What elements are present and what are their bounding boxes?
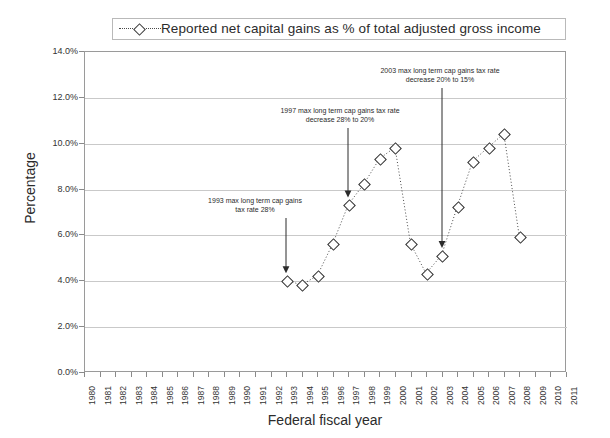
gridline bbox=[85, 190, 567, 191]
y-tick-mark bbox=[79, 143, 84, 144]
chart-annotation: 1993 max long term cap gainstax rate 28% bbox=[165, 196, 345, 214]
x-tick-mark bbox=[535, 372, 536, 377]
y-tick-label: 12.0% bbox=[28, 92, 78, 102]
x-tick-label: 1981 bbox=[104, 386, 113, 405]
x-tick-mark bbox=[224, 372, 225, 377]
x-tick-mark bbox=[131, 372, 132, 377]
x-tick-label: 1998 bbox=[368, 386, 377, 405]
chart-annotation: 2003 max long term cap gains tax ratedec… bbox=[350, 66, 530, 84]
chart-container: Reported net capital gains as % of total… bbox=[0, 0, 610, 438]
x-tick-mark bbox=[271, 372, 272, 377]
x-tick-label: 2008 bbox=[523, 386, 532, 405]
y-tick-mark bbox=[79, 280, 84, 281]
annotation-arrow-icon bbox=[279, 218, 293, 273]
x-tick-mark bbox=[488, 372, 489, 377]
legend-series-label: Reported net capital gains as % of total… bbox=[161, 21, 541, 37]
y-tick-label: 4.0% bbox=[28, 275, 78, 285]
annotation-line-2: tax rate 28% bbox=[165, 205, 345, 214]
x-tick-label: 2006 bbox=[492, 386, 501, 405]
y-tick-label: 10.0% bbox=[28, 138, 78, 148]
x-tick-mark bbox=[348, 372, 349, 377]
x-tick-mark bbox=[100, 372, 101, 377]
x-tick-mark bbox=[411, 372, 412, 377]
x-tick-mark bbox=[566, 372, 567, 377]
x-tick-mark bbox=[84, 372, 85, 377]
x-tick-label: 2003 bbox=[446, 386, 455, 405]
x-tick-mark bbox=[208, 372, 209, 377]
x-tick-mark bbox=[426, 372, 427, 377]
x-tick-label: 1985 bbox=[166, 386, 175, 405]
x-tick-mark bbox=[473, 372, 474, 377]
x-tick-mark bbox=[442, 372, 443, 377]
x-tick-mark bbox=[286, 372, 287, 377]
y-tick-label: 0.0% bbox=[28, 367, 78, 377]
x-tick-label: 2007 bbox=[508, 386, 517, 405]
y-tick-label: 2.0% bbox=[28, 321, 78, 331]
gridline bbox=[85, 327, 567, 328]
chart-annotation: 1997 max long term cap gains tax ratedec… bbox=[250, 106, 430, 124]
x-tick-label: 1982 bbox=[119, 386, 128, 405]
y-tick-mark bbox=[79, 326, 84, 327]
x-tick-mark bbox=[302, 372, 303, 377]
y-tick-mark bbox=[79, 189, 84, 190]
x-tick-label: 2000 bbox=[399, 386, 408, 405]
x-tick-mark bbox=[364, 372, 365, 377]
x-tick-label: 1990 bbox=[243, 386, 252, 405]
y-tick-label: 14.0% bbox=[28, 46, 78, 56]
x-tick-label: 1993 bbox=[290, 386, 299, 405]
x-tick-mark bbox=[115, 372, 116, 377]
x-tick-mark bbox=[550, 372, 551, 377]
x-tick-label: 1999 bbox=[383, 386, 392, 405]
x-tick-label: 2009 bbox=[539, 386, 548, 405]
x-tick-mark bbox=[379, 372, 380, 377]
x-tick-label: 2002 bbox=[430, 386, 439, 405]
chart-legend: Reported net capital gains as % of total… bbox=[112, 18, 566, 40]
annotation-arrow-icon bbox=[341, 128, 355, 198]
annotation-line-1: 1997 max long term cap gains tax rate bbox=[250, 106, 430, 115]
y-tick-mark bbox=[79, 234, 84, 235]
y-tick-label: 6.0% bbox=[28, 229, 78, 239]
x-tick-mark bbox=[457, 372, 458, 377]
x-tick-label: 1986 bbox=[181, 386, 190, 405]
x-tick-label: 2010 bbox=[554, 386, 563, 405]
x-tick-label: 1989 bbox=[228, 386, 237, 405]
gridline bbox=[85, 98, 567, 99]
x-tick-mark bbox=[395, 372, 396, 377]
x-tick-mark bbox=[177, 372, 178, 377]
gridline bbox=[85, 281, 567, 282]
x-tick-label: 1988 bbox=[212, 386, 221, 405]
gridline bbox=[85, 144, 567, 145]
legend-series-marker-icon bbox=[119, 22, 161, 36]
x-tick-mark bbox=[333, 372, 334, 377]
x-tick-label: 2011 bbox=[570, 387, 579, 405]
annotation-line-2: decrease 20% to 15% bbox=[350, 75, 530, 84]
y-tick-label: 8.0% bbox=[28, 184, 78, 194]
x-tick-mark bbox=[193, 372, 194, 377]
x-tick-label: 1997 bbox=[352, 386, 361, 405]
y-tick-mark bbox=[79, 97, 84, 98]
x-tick-label: 1991 bbox=[259, 386, 268, 405]
scan-artifact bbox=[150, 0, 430, 8]
x-tick-label: 2004 bbox=[461, 386, 470, 405]
x-tick-mark bbox=[519, 372, 520, 377]
x-tick-label: 1984 bbox=[150, 386, 159, 405]
x-tick-label: 2005 bbox=[477, 386, 486, 405]
x-tick-label: 1987 bbox=[197, 386, 206, 405]
x-tick-label: 1995 bbox=[321, 386, 330, 405]
gridline bbox=[85, 235, 567, 236]
annotation-line-2: decrease 28% to 20% bbox=[250, 115, 430, 124]
x-axis-title: Federal fiscal year bbox=[84, 412, 566, 428]
x-tick-label: 2001 bbox=[415, 386, 424, 405]
x-tick-mark bbox=[255, 372, 256, 377]
x-tick-label: 1980 bbox=[88, 386, 97, 405]
annotation-line-1: 2003 max long term cap gains tax rate bbox=[350, 66, 530, 75]
annotation-arrow-icon bbox=[435, 88, 449, 248]
x-tick-mark bbox=[504, 372, 505, 377]
x-tick-label: 1983 bbox=[135, 386, 144, 405]
x-tick-label: 1992 bbox=[275, 386, 284, 405]
x-tick-mark bbox=[146, 372, 147, 377]
annotation-line-1: 1993 max long term cap gains bbox=[165, 196, 345, 205]
x-tick-label: 1996 bbox=[337, 386, 346, 405]
x-tick-mark bbox=[239, 372, 240, 377]
y-tick-mark bbox=[79, 51, 84, 52]
